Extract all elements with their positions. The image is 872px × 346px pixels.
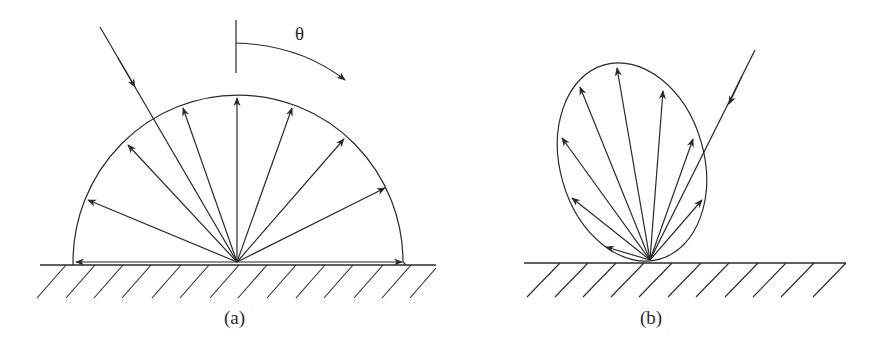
- angle-theta-arc: [236, 43, 345, 80]
- directional-lobe-ellipse: [535, 45, 729, 279]
- reflected-rays-b: [562, 68, 702, 260]
- theta-label: θ: [295, 23, 304, 44]
- panel-b-caption: (b): [640, 307, 662, 329]
- panel-a-caption: (a): [224, 307, 245, 329]
- diffuse-lobe-semicircle: [73, 95, 406, 265]
- reflected-rays-a: [76, 98, 402, 262]
- panel-b: (b): [524, 45, 846, 329]
- panel-a: θ (a): [37, 20, 436, 329]
- incident-ray-b: [650, 50, 755, 260]
- surface-hatching-b: [527, 263, 846, 297]
- reflection-diagram: θ (a): [0, 0, 872, 346]
- surface-hatching-a: [37, 265, 436, 298]
